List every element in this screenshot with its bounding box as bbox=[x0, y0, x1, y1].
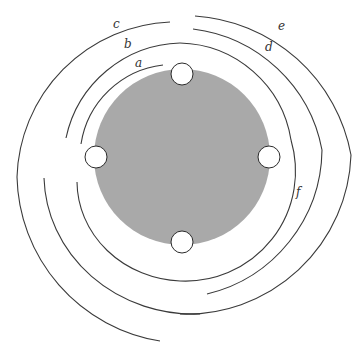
node-left bbox=[85, 146, 107, 168]
central-disk bbox=[94, 69, 270, 245]
label-e: e bbox=[278, 19, 285, 33]
label-d: d bbox=[265, 40, 273, 54]
label-c: c bbox=[113, 17, 120, 31]
orbit-diagram: a b c d e f bbox=[0, 0, 360, 357]
label-a: a bbox=[135, 56, 142, 70]
node-top bbox=[171, 63, 193, 85]
label-b: b bbox=[124, 37, 132, 51]
label-f: f bbox=[295, 185, 303, 199]
node-bottom bbox=[171, 231, 193, 253]
node-right bbox=[258, 146, 280, 168]
